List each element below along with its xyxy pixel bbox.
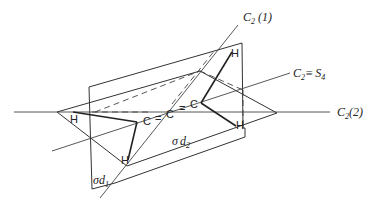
label-c2-2: C2(2)	[337, 105, 363, 121]
allene-symmetry-diagram: H H H H C = C = C C2(1) C2≡S4 C2(2) σd2 …	[0, 0, 373, 211]
svg-text:C2(2): C2(2)	[337, 105, 363, 121]
atom-h-right: H	[236, 119, 244, 131]
label-sigma-d2: σd2	[172, 134, 190, 150]
label-c2-s4: C2≡S4	[293, 66, 325, 82]
atom-h-top: H	[231, 47, 239, 59]
svg-text:σd2: σd2	[172, 134, 190, 150]
atom-c-center: C	[166, 108, 174, 120]
label-c2-1: C2(1)	[243, 10, 272, 26]
double-bond-1: =	[155, 112, 161, 124]
svg-text:C2≡S4: C2≡S4	[293, 66, 325, 82]
label-sigma-d1: σd1	[93, 173, 109, 189]
double-bond-2: =	[179, 102, 185, 114]
atom-h-left: H	[70, 113, 78, 125]
atom-h-bottom: H	[121, 154, 129, 166]
atom-c-right: C	[190, 98, 198, 110]
atom-c-left: C	[143, 115, 151, 127]
svg-text:σd1: σd1	[93, 173, 109, 189]
svg-text:C2(1): C2(1)	[243, 10, 272, 26]
